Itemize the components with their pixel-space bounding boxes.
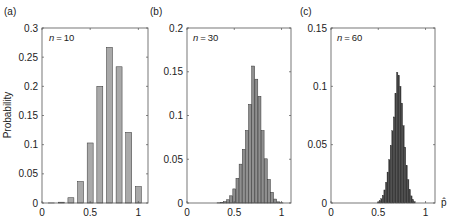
histogram-bar: [400, 86, 401, 203]
histogram-bar: [230, 196, 233, 203]
histogram-bar: [389, 160, 390, 203]
histogram-bar: [264, 159, 267, 203]
histogram-bar: [126, 132, 132, 203]
panel-label: (c): [300, 6, 312, 17]
x-tick-label: 0.5: [83, 207, 97, 218]
panel-label: (a): [4, 6, 16, 17]
x-axis-ticks: 00.51: [328, 28, 429, 218]
histogram-bar: [261, 131, 264, 203]
histogram-bar: [267, 179, 270, 203]
y-tick-label: 0.25: [19, 52, 39, 63]
histogram-bar: [252, 66, 255, 203]
histogram-bar: [227, 200, 230, 203]
histogram-bar: [382, 195, 383, 203]
histogram-bars: [378, 72, 416, 203]
figure: (a) 00.050.10.150.20.250.3 00.51 n = 10 …: [0, 0, 452, 220]
histogram-bar: [412, 200, 413, 204]
y-tick-label: 0: [321, 198, 327, 209]
histogram-bar: [409, 190, 410, 203]
histogram-bar: [396, 72, 397, 203]
histogram-bar: [239, 164, 242, 203]
histogram-bar: [403, 126, 404, 203]
histogram-bar: [384, 190, 385, 203]
x-tick-label: 0.5: [371, 207, 385, 218]
histogram-bar: [406, 165, 407, 203]
histogram-bar: [106, 47, 112, 203]
histogram-bar: [407, 180, 408, 203]
histogram-bar: [258, 96, 261, 203]
histogram-bar: [68, 198, 74, 203]
histogram-bar: [245, 130, 248, 203]
y-tick-label: 0: [177, 198, 183, 209]
sample-size-annotation: n = 30: [193, 32, 218, 43]
y-tick-label: 0.1: [313, 81, 327, 92]
x-tick-label: 0: [184, 207, 190, 218]
histogram-bar: [393, 117, 394, 203]
histogram-bar: [242, 149, 245, 203]
histogram-bar: [135, 187, 141, 203]
y-tick-label: 0.1: [169, 110, 183, 121]
y-tick-label: 0.3: [24, 23, 38, 34]
histogram-bar: [390, 145, 391, 203]
histogram-bar: [233, 189, 236, 203]
sample-size-annotation: n = 60: [337, 32, 362, 43]
histogram-bar: [392, 131, 393, 203]
x-tick-label: 1: [136, 207, 142, 218]
histogram-bar: [401, 103, 402, 203]
y-axis-ticks: 00.050.10.150.2: [164, 23, 291, 209]
y-axis-label: Probability: [2, 92, 13, 139]
panel-b: (b) 00.050.10.150.2 00.51 n = 30: [150, 6, 291, 218]
sample-size-annotation: n = 10: [49, 32, 74, 43]
y-tick-label: 0.15: [308, 23, 328, 34]
panel-a: (a) 00.050.10.150.20.250.3 00.51 n = 10 …: [2, 6, 148, 218]
figure-canvas: (a) 00.050.10.150.20.250.3 00.51 n = 10 …: [0, 0, 452, 220]
y-axis-ticks: 00.050.10.15: [308, 23, 435, 209]
histogram-bar: [404, 147, 405, 203]
histogram-bars: [217, 66, 283, 203]
x-tick-label: 1: [279, 207, 285, 218]
histogram-bar: [255, 79, 258, 203]
x-tick-label: 0: [39, 207, 45, 218]
x-axis-label: p̂: [441, 197, 447, 208]
y-tick-label: 0.2: [169, 23, 183, 34]
histogram-bar: [97, 86, 103, 203]
n-value: = 30: [198, 32, 218, 43]
histogram-bar: [411, 196, 412, 203]
histogram-bar: [116, 67, 122, 203]
y-tick-label: 0.05: [308, 139, 328, 150]
y-tick-label: 0.2: [24, 81, 38, 92]
histogram-bar: [387, 172, 388, 203]
y-tick-label: 0.15: [19, 110, 39, 121]
plot-frame: [42, 28, 148, 203]
x-tick-label: 0: [328, 207, 334, 218]
histogram-bar: [381, 199, 382, 203]
panel-label: (b): [150, 6, 162, 17]
plot-frame: [331, 28, 435, 203]
y-tick-label: 0.15: [164, 66, 184, 77]
histogram-bar: [274, 199, 277, 203]
histogram-bars: [49, 47, 142, 203]
histogram-bar: [236, 178, 239, 203]
histogram-bar: [395, 93, 396, 203]
histogram-bar: [87, 143, 93, 203]
y-tick-label: 0.05: [19, 168, 39, 179]
x-tick-label: 0.5: [227, 207, 241, 218]
histogram-bar: [398, 75, 399, 203]
n-value: = 10: [54, 32, 74, 43]
y-tick-label: 0: [32, 198, 38, 209]
histogram-bar: [78, 182, 84, 203]
x-tick-label: 1: [423, 207, 429, 218]
histogram-bar: [385, 182, 386, 203]
histogram-bar: [249, 104, 252, 203]
y-tick-label: 0.1: [24, 139, 38, 150]
histogram-bar: [271, 192, 274, 203]
y-tick-label: 0.05: [164, 154, 184, 165]
panel-c: (c) 00.050.10.15 00.51 n = 60 p̂: [300, 6, 447, 218]
n-value: = 60: [342, 32, 362, 43]
